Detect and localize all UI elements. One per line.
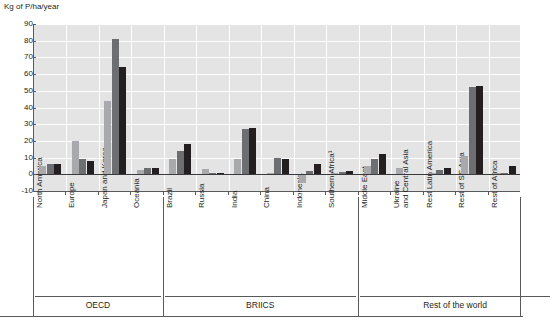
category-tick: [130, 191, 131, 195]
y-tick-mark: [33, 158, 36, 159]
category-tick: [163, 191, 164, 195]
y-tick-label: 30: [7, 120, 33, 128]
bar-series-container: [34, 24, 520, 191]
category-tick: [65, 191, 66, 195]
category-tick: [390, 191, 391, 195]
category-tick: [358, 191, 359, 195]
bar: [469, 87, 476, 174]
y-tick-mark: [33, 174, 36, 175]
plot-area: [33, 24, 520, 191]
bar: [184, 144, 191, 174]
bar: [242, 129, 249, 174]
y-tick-label: 70: [7, 53, 33, 61]
category-tick: [455, 191, 456, 195]
y-tick-mark: [33, 41, 36, 42]
section-separator-in-plot: [359, 24, 360, 191]
y-tick-label: 40: [7, 104, 33, 112]
category-tick: [293, 191, 294, 195]
y-tick-label: 90: [7, 20, 33, 28]
category-tick: [228, 191, 229, 195]
bar: [396, 168, 403, 175]
bar: [39, 166, 46, 174]
bar: [47, 164, 54, 174]
section-bracket-line: [165, 296, 356, 297]
y-tick-mark: [33, 124, 36, 125]
category-tick: [325, 191, 326, 195]
y-tick-label: 50: [7, 87, 33, 95]
bar: [314, 164, 321, 174]
section-divider: [358, 197, 359, 316]
section-divider: [33, 197, 34, 316]
bar: [249, 128, 256, 175]
y-tick-label: 10: [7, 154, 33, 162]
y-tick-mark: [33, 24, 36, 25]
y-tick-label: 20: [7, 137, 33, 145]
category-tick: [195, 191, 196, 195]
y-tick-label: 0: [7, 170, 33, 178]
bar: [54, 164, 61, 174]
y-tick-mark: [33, 91, 36, 92]
y-tick-mark: [33, 141, 36, 142]
bar: [274, 158, 281, 175]
bar: [476, 86, 483, 175]
bar: [282, 159, 289, 174]
y-tick-mark: [33, 74, 36, 75]
bar: [104, 101, 111, 174]
category-tick: [260, 191, 261, 195]
y-tick-label: -10: [7, 187, 33, 195]
bar: [299, 174, 306, 182]
bar: [72, 141, 79, 174]
bar: [461, 156, 468, 174]
zero-baseline: [34, 174, 520, 175]
bar: [119, 67, 126, 174]
bar: [379, 154, 386, 174]
section-bracket-line: [360, 296, 551, 297]
category-tick: [98, 191, 99, 195]
bar: [509, 166, 516, 174]
bar: [87, 161, 94, 174]
y-axis-tick-labels: 9080706050403020100-10: [0, 0, 33, 324]
bar: [79, 159, 86, 174]
bar: [364, 166, 371, 174]
bar: [177, 151, 184, 174]
bar: [234, 159, 241, 174]
y-tick-mark: [33, 57, 36, 58]
section-divider: [520, 197, 521, 316]
section-label: OECD: [33, 300, 163, 310]
bar: [371, 159, 378, 174]
category-tick: [488, 191, 489, 195]
y-tick-label: 60: [7, 70, 33, 78]
category-label: India: [230, 191, 239, 208]
bottom-rule: [0, 316, 523, 317]
section-label: BRIICS: [163, 300, 358, 310]
y-tick-label: 80: [7, 37, 33, 45]
y-tick-mark: [33, 191, 36, 192]
y-tick-mark: [33, 108, 36, 109]
bar: [169, 159, 176, 174]
section-divider: [163, 197, 164, 316]
section-label: Rest of the world: [358, 300, 552, 310]
section-bracket-line: [35, 296, 161, 297]
bar: [112, 39, 119, 174]
category-tick: [423, 191, 424, 195]
section-separator-in-plot: [164, 24, 165, 191]
